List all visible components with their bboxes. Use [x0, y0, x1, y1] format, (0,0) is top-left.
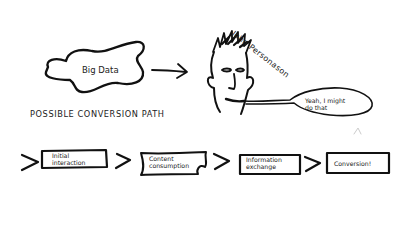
chevron-4: [305, 157, 320, 171]
chevron-3: [214, 154, 229, 169]
step-information-exchange: Information exchange: [246, 157, 282, 170]
step-label-line2: exchange: [246, 164, 282, 171]
speech-text: Yeah, I might do that: [305, 98, 345, 111]
chevron-2: [116, 154, 130, 168]
big-data-label: Big Data: [82, 66, 119, 75]
step-label-line1: Conversion!: [334, 161, 371, 168]
step-initial-interaction: Initial interaction: [52, 153, 85, 166]
arrow-to-persona: [152, 64, 187, 78]
step-conversion: Conversion!: [334, 161, 371, 168]
chevron-1: [22, 155, 38, 170]
conversion-path-title: POSSIBLE CONVERSION PATH: [30, 110, 165, 119]
step-label-line2: interaction: [52, 160, 85, 167]
step-label-line2: consumption: [149, 163, 189, 170]
step-content-consumption: Content consumption: [149, 156, 189, 169]
speech-line-2: do that: [305, 105, 345, 112]
